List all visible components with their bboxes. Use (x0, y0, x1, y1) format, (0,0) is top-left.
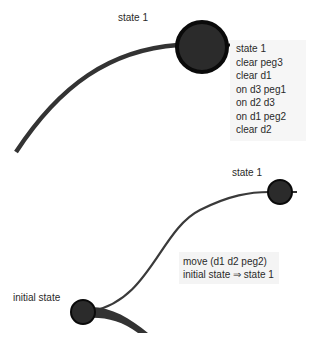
node-state-1-large[interactable] (177, 22, 227, 72)
edge-thick-bottom[interactable] (88, 307, 148, 333)
tooltip-fact: clear d1 (236, 69, 306, 83)
node-label-state-1-bottom: state 1 (232, 167, 262, 179)
tooltip-fact: on d1 peg2 (236, 110, 306, 124)
state-tooltip: state 1 clear peg3 clear d1 on d3 peg1 o… (230, 40, 306, 141)
node-initial-state[interactable] (71, 300, 95, 324)
edge-action: move (d1 d2 peg2) (183, 255, 274, 268)
tooltip-fact: on d3 peg1 (236, 83, 306, 97)
node-state-1-small[interactable] (268, 180, 292, 204)
node-label-state-1-top: state 1 (118, 12, 148, 24)
tooltip-title: state 1 (236, 42, 306, 56)
tooltip-fact: on d2 d3 (236, 96, 306, 110)
edge-transition: initial state ⇒ state 1 (183, 268, 274, 281)
node-label-initial-state: initial state (13, 292, 60, 304)
tooltip-fact: clear peg3 (236, 56, 306, 70)
tooltip-fact: clear d2 (236, 123, 306, 137)
edge-label: move (d1 d2 peg2) initial state ⇒ state … (179, 252, 279, 284)
edge-top[interactable] (16, 45, 178, 152)
